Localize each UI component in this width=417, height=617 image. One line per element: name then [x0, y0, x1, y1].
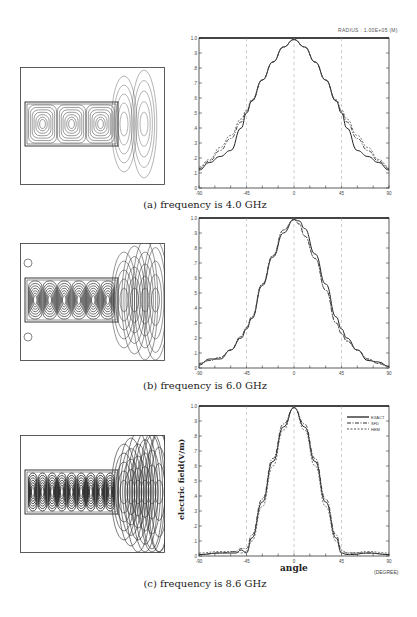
contour-line — [41, 488, 44, 497]
contour-line — [29, 281, 43, 319]
y-tick-label: .7 — [193, 449, 197, 454]
contour-line — [38, 117, 47, 131]
x-tick-label: 45 — [339, 559, 345, 564]
contour-line — [60, 488, 63, 497]
contour-line — [40, 120, 46, 129]
y-axis-label: electric field(V/m) — [176, 439, 186, 520]
y-tick-label: 0 — [194, 186, 197, 191]
radiated-contour — [118, 471, 130, 513]
y-tick-label: .1 — [193, 171, 197, 176]
y-tick-label: 1.0 — [191, 36, 198, 41]
x-tick-label: 45 — [339, 191, 345, 196]
radiation-pattern-chart-a: 0.1.2.3.4.5.6.7.8.91.0-90-4504590 — [190, 33, 412, 198]
contour-line — [90, 110, 111, 138]
contour-line — [77, 296, 81, 305]
contour-line — [91, 296, 95, 305]
radiated-contour — [136, 91, 153, 157]
y-tick-label: .4 — [193, 126, 197, 131]
y-tick-label: .1 — [193, 539, 197, 544]
waveguide-outline — [25, 102, 118, 146]
y-tick-label: .9 — [193, 419, 197, 424]
contour-line — [87, 105, 115, 143]
y-tick-label: 1.0 — [191, 404, 198, 409]
y-tick-label: .9 — [193, 231, 197, 236]
caption-a: (a) frequency is 4.0 GHz — [50, 199, 360, 210]
y-tick-label: .3 — [193, 321, 197, 326]
chart-a: 0.1.2.3.4.5.6.7.8.91.0-90-4504590 — [190, 33, 412, 202]
contour-line — [48, 296, 52, 305]
x-tick-label: -45 — [243, 191, 250, 196]
contour-line — [34, 112, 51, 135]
chart-b: 0.1.2.3.4.5.6.7.8.91.0-90-4504590 — [190, 213, 412, 382]
contour-line — [89, 288, 98, 311]
radiated-contour — [120, 112, 128, 136]
contour-line — [72, 281, 86, 319]
contour-line — [58, 281, 72, 319]
y-tick-label: .3 — [193, 509, 197, 514]
x-unit-label: (DEGREE) — [374, 569, 398, 575]
radiated-contour — [138, 102, 150, 147]
contour-line — [67, 117, 76, 131]
x-tick-label: 0 — [293, 191, 296, 196]
radiated-contour — [120, 449, 141, 536]
y-tick-label: 0 — [194, 366, 197, 371]
radiation-pattern-chart-c: 0.1.2.3.4.5.6.7.8.91.0-90-4504590EXACTSF… — [190, 401, 412, 566]
legend-label: EXACT — [371, 415, 385, 420]
legend-label: SFD — [371, 421, 379, 426]
contour-line — [62, 296, 66, 305]
y-tick-label: .4 — [193, 494, 197, 499]
field-plot-b — [20, 243, 165, 361]
x-tick-label: -45 — [243, 371, 250, 376]
y-tick-label: 0 — [194, 554, 197, 559]
radiated-contour — [133, 81, 154, 168]
radiated-contour — [118, 438, 144, 546]
y-tick-label: .4 — [193, 306, 197, 311]
y-tick-label: .2 — [193, 336, 197, 341]
contour-line — [31, 288, 40, 311]
contour-line — [103, 288, 112, 311]
contour-plot-c — [20, 435, 165, 553]
x-tick-label: -45 — [243, 559, 250, 564]
contour-line — [74, 288, 83, 311]
radiated-contour — [111, 76, 137, 172]
y-tick-label: .3 — [193, 141, 197, 146]
contour-line — [63, 112, 80, 135]
x-tick-label: 90 — [386, 559, 392, 564]
radiated-contour — [113, 85, 134, 163]
x-axis-label: angle — [280, 563, 308, 573]
contour-line — [98, 120, 104, 129]
y-tick-label: .8 — [193, 66, 197, 71]
contour-line — [101, 281, 115, 319]
x-tick-label: 90 — [386, 371, 392, 376]
contour-line — [60, 288, 69, 311]
contour-line — [96, 117, 105, 131]
y-tick-label: .8 — [193, 434, 197, 439]
plot-frame — [21, 68, 165, 185]
contour-line — [31, 488, 34, 497]
chart-c: 0.1.2.3.4.5.6.7.8.91.0-90-4504590EXACTSF… — [190, 401, 412, 570]
x-tick-label: -90 — [196, 371, 203, 376]
y-tick-label: .2 — [193, 524, 197, 529]
caption-c: (c) frequency is 8.6 GHz — [50, 578, 360, 589]
y-tick-label: .7 — [193, 261, 197, 266]
contour-line — [43, 281, 57, 319]
x-tick-label: 0 — [293, 371, 296, 376]
contour-line — [87, 281, 101, 319]
y-tick-label: .1 — [193, 351, 197, 356]
x-tick-label: 45 — [339, 371, 345, 376]
contour-line — [106, 296, 110, 305]
y-tick-label: .6 — [193, 464, 197, 469]
y-tick-label: .5 — [193, 111, 197, 116]
contour-line — [92, 112, 109, 135]
contour-plot-b — [20, 243, 165, 361]
radiated-contour — [113, 453, 134, 531]
radiated-contour — [118, 103, 130, 145]
y-tick-label: .7 — [193, 81, 197, 86]
caption-b: (b) frequency is 6.0 GHz — [50, 380, 360, 391]
y-tick-label: .2 — [193, 156, 197, 161]
x-tick-label: -90 — [196, 559, 203, 564]
field-plot-c — [20, 435, 165, 553]
x-tick-label: 90 — [386, 191, 392, 196]
y-tick-label: .6 — [193, 276, 197, 281]
contour-line — [45, 288, 54, 311]
